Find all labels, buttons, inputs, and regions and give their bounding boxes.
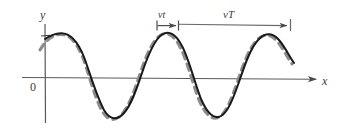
x-axis — [22, 78, 316, 80]
y-axis-label: y — [40, 9, 45, 21]
vT-measure — [179, 19, 291, 31]
vt-label: vt — [158, 10, 165, 20]
origin-label: 0 — [30, 81, 36, 93]
wave-figure: y x 0 vt vT — [0, 0, 338, 135]
wave-diagram-svg — [0, 0, 338, 135]
vT-label: vT — [223, 9, 234, 20]
x-axis-label: x — [322, 75, 327, 87]
vt-measure — [157, 21, 179, 31]
solid-wave — [45, 33, 294, 119]
